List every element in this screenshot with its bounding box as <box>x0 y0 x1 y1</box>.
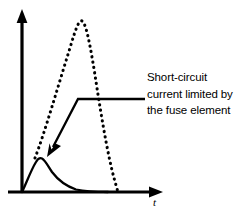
fuse-limited-current-curve <box>22 158 108 192</box>
annotation-leader-line <box>47 99 145 157</box>
annotation-caption: Short-circuit current limited by the fus… <box>147 69 243 119</box>
annotation-line-1: Short-circuit <box>147 69 243 86</box>
annotation-line-3: the fuse element <box>147 102 243 119</box>
annotation-line-2: current limited by <box>147 86 243 103</box>
fuse-current-limiting-diagram: Short-circuit current limited by the fus… <box>0 0 243 216</box>
current-axis <box>17 9 28 192</box>
x-axis-label: t <box>153 196 156 208</box>
